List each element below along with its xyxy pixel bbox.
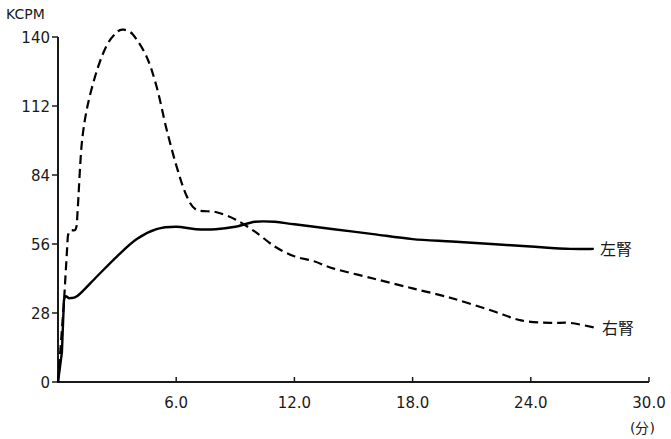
y-tick-label: 56 (31, 236, 50, 254)
x-axis-title: (分) (630, 420, 655, 436)
series-line-left-kidney (58, 221, 594, 382)
y-axis-ticks: 0285684112140 (21, 29, 58, 392)
series-line-right-kidney (58, 29, 596, 382)
series-layer: 左腎右腎 (58, 29, 634, 382)
y-tick-label: 0 (40, 374, 50, 392)
x-tick-label: 30.0 (632, 394, 665, 412)
y-tick-label: 28 (31, 305, 50, 323)
series-label: 右腎 (602, 319, 634, 338)
x-tick-label: 6.0 (164, 394, 188, 412)
x-tick-label: 24.0 (514, 394, 547, 412)
x-tick-label: 12.0 (278, 394, 311, 412)
y-axis-title: KCPM (6, 6, 45, 22)
x-tick-label: 18.0 (396, 394, 429, 412)
y-tick-label: 140 (21, 29, 50, 47)
y-tick-label: 84 (31, 167, 50, 185)
y-tick-label: 112 (21, 98, 50, 116)
series-label: 左腎 (600, 240, 632, 259)
line-chart: KCPM 0285684112140 6.012.018.024.030.0 左… (0, 0, 671, 439)
